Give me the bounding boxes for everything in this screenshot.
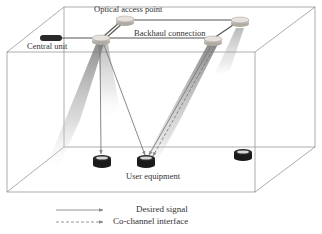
legend-desired-signal: Desired signal [136, 205, 188, 214]
legend-co-channel-interface: Co-channel interface [113, 217, 188, 226]
access-point-top [116, 16, 134, 26]
label-central-unit: Central unit [27, 42, 67, 51]
user-equipment-2 [137, 155, 155, 168]
label-backhaul-connection: Backhaul connection [134, 29, 206, 38]
desired-signal-arrow-3 [149, 46, 211, 155]
user-equipment-icons [93, 149, 252, 168]
label-user-equipment: User equipment [126, 172, 180, 181]
user-equipment-3 [234, 149, 252, 161]
access-point-top-right [231, 17, 249, 27]
legend-symbols [56, 210, 103, 222]
label-optical-access-point: Optical access point [94, 5, 162, 14]
access-point-right [204, 36, 222, 46]
user-equipment-1 [93, 155, 111, 168]
beam-center-left [98, 44, 120, 120]
access-point-left [92, 35, 110, 45]
beam-left [45, 44, 104, 175]
